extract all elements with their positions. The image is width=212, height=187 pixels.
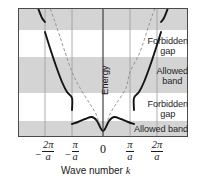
- band-structure-plot: [0, 0, 212, 187]
- band-structure-figure: Energy ForbiddengapAllowedbandForbiddeng…: [0, 0, 212, 187]
